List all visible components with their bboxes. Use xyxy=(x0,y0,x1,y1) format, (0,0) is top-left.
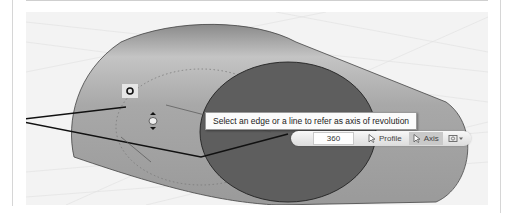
axis-selection-tooltip: Select an edge or a line to refer as axi… xyxy=(205,112,417,130)
3d-viewport[interactable]: Select an edge or a line to refer as axi… xyxy=(26,12,488,205)
cursor-arrow-icon xyxy=(368,134,376,143)
frame-right-border xyxy=(500,0,501,213)
profile-button-label: Profile xyxy=(379,134,402,143)
view-options-dropdown-icon xyxy=(448,134,464,143)
profile-select-button[interactable]: Profile xyxy=(364,132,406,145)
frame-top-border xyxy=(26,0,488,1)
cylinder-scene xyxy=(26,12,488,205)
axis-select-button[interactable]: Axis xyxy=(409,132,443,145)
axis-button-label: Axis xyxy=(424,134,439,143)
cursor-arrow-icon xyxy=(413,134,421,143)
rotation-handle-icon[interactable] xyxy=(148,112,158,130)
view-options-dropdown[interactable] xyxy=(448,134,464,143)
revolve-mini-toolbar: Profile Axis xyxy=(291,131,471,146)
origin-grip-icon[interactable] xyxy=(122,84,138,98)
frame-left-border xyxy=(12,0,13,206)
revolve-angle-input[interactable] xyxy=(313,132,354,145)
